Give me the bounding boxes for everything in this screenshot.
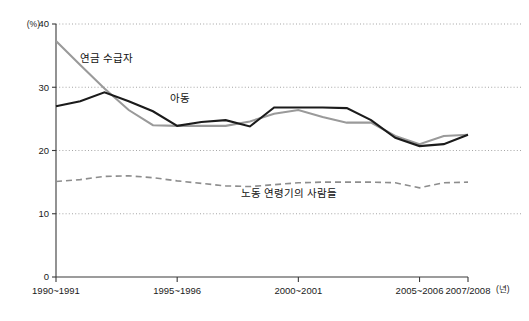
annotation-children: 아동 [170, 92, 190, 104]
y-tick-label-20: 20 [38, 145, 49, 156]
x-tick-label-0: 1990~1991 [32, 285, 80, 296]
y-tick-label-10: 10 [38, 208, 49, 219]
x-tick-label-2: 2000~2001 [274, 285, 322, 296]
y-axis-unit-label: (%) [27, 19, 40, 29]
y-tick-label-0: 0 [44, 271, 49, 282]
x-tick-label-1: 1995~1996 [153, 285, 201, 296]
y-tick-label-40: 40 [38, 18, 49, 29]
x-tick-label-3: 2005~2006 [396, 285, 444, 296]
x-axis-unit-label: (년) [496, 284, 510, 294]
annotation-working-age: 노동 연령기의 사람들 [241, 187, 337, 199]
y-tick-label-30: 30 [38, 82, 49, 93]
x-tick-label-4: 2007/2008 [446, 285, 491, 296]
annotation-pension-recipients: 연금 수급자 [80, 52, 133, 64]
chart-background [0, 0, 529, 321]
chart-canvas: 010203040 1990~19911995~19962000~2001200… [0, 0, 529, 321]
line-chart: 010203040 1990~19911995~19962000~2001200… [0, 0, 529, 321]
